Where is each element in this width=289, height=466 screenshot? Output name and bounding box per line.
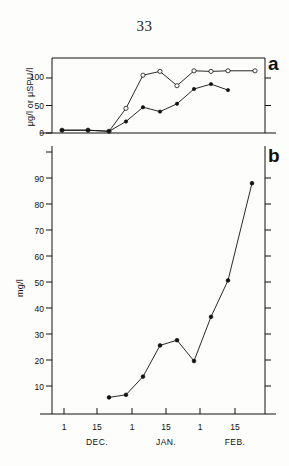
data-point	[158, 344, 162, 348]
panel-a-series-open	[60, 69, 257, 134]
data-point	[175, 338, 179, 342]
plot-canvas	[0, 0, 289, 466]
data-point	[60, 129, 63, 132]
data-point	[209, 82, 212, 85]
data-point	[107, 396, 111, 400]
panel-a-series-filled	[60, 82, 229, 133]
data-point	[158, 69, 162, 73]
data-point	[141, 375, 145, 379]
data-point	[124, 106, 128, 110]
data-point	[192, 69, 196, 73]
data-point	[158, 110, 161, 113]
data-point	[175, 102, 178, 105]
data-point	[86, 129, 89, 132]
data-point	[175, 84, 179, 88]
data-point	[192, 359, 196, 363]
data-point	[141, 73, 145, 77]
data-point	[209, 315, 213, 319]
panel-b-frame	[40, 146, 276, 414]
data-point	[192, 87, 195, 90]
data-point	[253, 69, 257, 73]
data-point	[226, 88, 229, 91]
data-point	[124, 393, 128, 397]
data-point	[107, 130, 110, 133]
data-point	[226, 69, 230, 73]
data-point	[250, 181, 254, 185]
data-point	[141, 106, 144, 109]
data-point	[226, 279, 230, 283]
data-point	[209, 69, 213, 73]
panel-b-series	[107, 181, 254, 399]
panel-a-frame	[40, 58, 276, 133]
data-point	[124, 120, 127, 123]
scientific-figure: 33 a μg/l or μSPU/l 0 50 100 b mg/l 10 2…	[0, 0, 289, 466]
